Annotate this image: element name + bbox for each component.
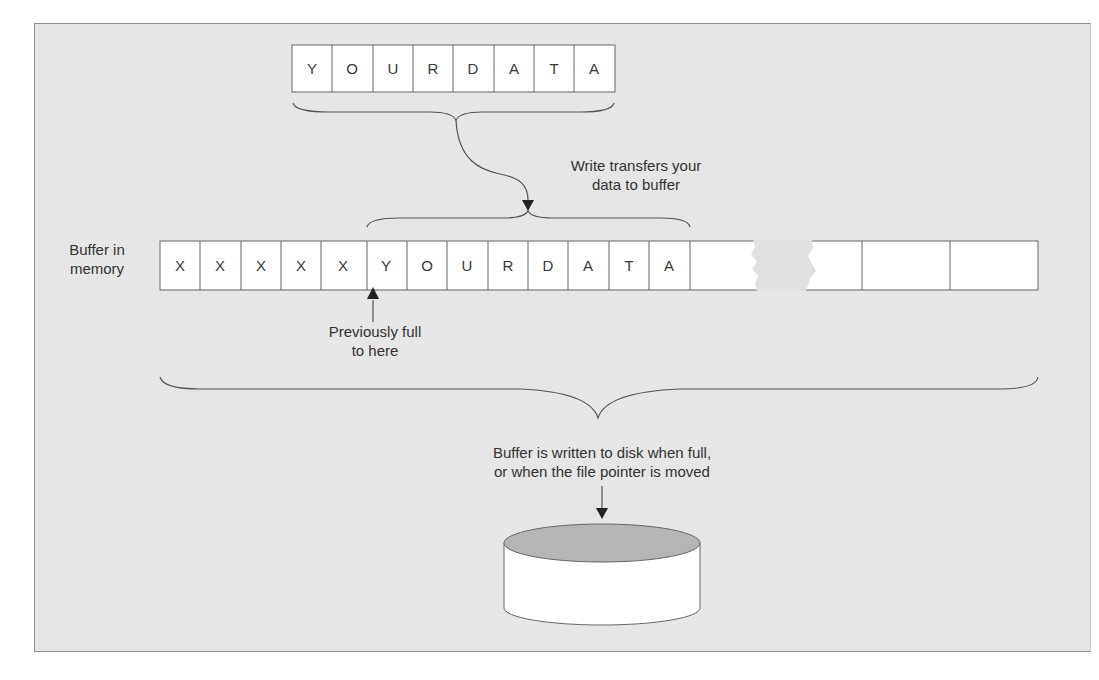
input-cell: Y (307, 60, 317, 77)
input-cell: O (346, 60, 358, 77)
buffer-cell: A (664, 257, 674, 274)
previous-marker-label: Previously full to here (310, 322, 440, 360)
input-data-row (292, 45, 615, 92)
buffer-cell: O (421, 257, 433, 274)
buffer-break (751, 240, 816, 291)
buffer-cell: T (624, 257, 633, 274)
write-target-brace (367, 211, 690, 227)
write-label-line1: Write transfers your (556, 156, 716, 175)
buffer-cell: R (503, 257, 514, 274)
buffer-cell: X (296, 257, 306, 274)
buffer-cell: U (462, 257, 473, 274)
input-cell: T (549, 60, 558, 77)
write-label-line2: data to buffer (556, 175, 716, 194)
write-arrow-icon (522, 200, 534, 211)
buffer-label-line2: memory (52, 259, 142, 278)
buffer-cell: X (175, 257, 185, 274)
diagram-canvas: Y O U R D A T A X X X X (0, 0, 1099, 680)
flush-label-line1: Buffer is written to disk when full, (462, 443, 742, 462)
buffer-cell: A (583, 257, 593, 274)
buffer-brace (160, 377, 1038, 418)
flush-label-line2: or when the file pointer is moved (462, 462, 742, 481)
write-label: Write transfers your data to buffer (556, 156, 716, 194)
flush-arrow-icon (596, 508, 608, 519)
buffer-cell: Y (381, 257, 391, 274)
disk-cylinder-icon (504, 524, 700, 625)
input-cell: R (428, 60, 439, 77)
flush-label: Buffer is written to disk when full, or … (462, 443, 742, 481)
buffer-cell: D (543, 257, 554, 274)
input-cell: A (509, 60, 519, 77)
buffer-cell: X (256, 257, 266, 274)
input-cell: A (589, 60, 599, 77)
buffer-label: Buffer in memory (52, 240, 142, 278)
previous-marker-line2: to here (310, 341, 440, 360)
buffer-label-line1: Buffer in (52, 240, 142, 259)
buffer-cell: X (215, 257, 225, 274)
previous-marker-line1: Previously full (310, 322, 440, 341)
input-cell: U (388, 60, 399, 77)
buffer-cell: X (338, 257, 348, 274)
buffer-row (160, 241, 1038, 290)
input-cell: D (468, 60, 479, 77)
